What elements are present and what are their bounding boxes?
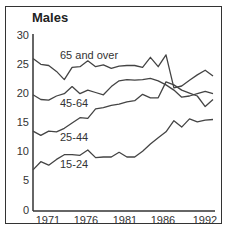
y-tick-5: 5 xyxy=(23,174,29,186)
x-tick-1971: 1971 xyxy=(36,214,60,226)
x-tick-1986: 1986 xyxy=(151,214,175,226)
y-tick-30: 30 xyxy=(17,29,29,41)
y-tick-labels: 30 25 20 15 10 5 0 xyxy=(17,29,29,216)
series-lines xyxy=(33,55,213,170)
x-tick-1992: 1992 xyxy=(193,214,217,226)
line-chart: 30 25 20 15 10 5 0 1971 1976 1981 1986 1… xyxy=(0,0,230,231)
y-tick-15: 15 xyxy=(17,116,29,128)
x-tick-labels: 1971 1976 1981 1986 1992 xyxy=(36,214,217,226)
x-tick-1981: 1981 xyxy=(113,214,137,226)
label-45-64: 45-64 xyxy=(60,97,88,109)
y-tick-25: 25 xyxy=(17,58,29,70)
y-tick-20: 20 xyxy=(17,87,29,99)
label-25-44: 25-44 xyxy=(60,131,88,143)
y-tick-0: 0 xyxy=(23,204,29,216)
label-65-and-over: 65 and over xyxy=(60,49,118,61)
y-tick-10: 10 xyxy=(17,145,29,157)
x-tick-1976: 1976 xyxy=(74,214,98,226)
label-15-24: 15-24 xyxy=(60,158,88,170)
